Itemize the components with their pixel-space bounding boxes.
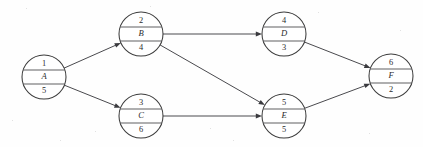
node-a[interactable]: 1A5 bbox=[22, 55, 66, 99]
node-layer: 1A52B43C64D35E56F2 bbox=[22, 12, 413, 138]
node-duration: 3 bbox=[282, 43, 286, 52]
edge-a-c bbox=[64, 85, 120, 108]
node-letter: B bbox=[138, 28, 144, 38]
edge-e-f bbox=[305, 84, 371, 109]
edge-b-d bbox=[163, 32, 262, 37]
node-letter: D bbox=[280, 28, 288, 38]
activity-network-diagram: 1A52B43C64D35E56F2 bbox=[0, 0, 423, 147]
arrow-head-icon bbox=[256, 114, 262, 119]
node-letter: C bbox=[138, 110, 144, 120]
edge-d-f bbox=[304, 42, 370, 68]
node-letter: E bbox=[280, 110, 287, 120]
node-duration: 5 bbox=[282, 125, 286, 134]
node-e[interactable]: 5E5 bbox=[262, 94, 306, 138]
node-number: 5 bbox=[282, 98, 286, 107]
node-number: 3 bbox=[139, 98, 143, 107]
node-d[interactable]: 4D3 bbox=[262, 12, 306, 56]
node-duration: 5 bbox=[42, 86, 46, 95]
diagram-canvas: 1A52B43C64D35E56F2 bbox=[0, 0, 423, 147]
edge-c-e bbox=[163, 114, 262, 119]
node-number: 6 bbox=[389, 58, 393, 67]
node-f[interactable]: 6F2 bbox=[369, 54, 413, 98]
node-letter: F bbox=[387, 70, 394, 80]
edge-a-b bbox=[64, 43, 121, 68]
node-c[interactable]: 3C6 bbox=[119, 94, 163, 138]
edge-b-e bbox=[160, 45, 265, 105]
node-number: 1 bbox=[42, 59, 46, 68]
node-duration: 6 bbox=[139, 125, 143, 134]
node-b[interactable]: 2B4 bbox=[119, 12, 163, 56]
arrow-head-icon bbox=[258, 100, 265, 105]
node-number: 2 bbox=[139, 16, 143, 25]
arrow-head-icon bbox=[364, 63, 371, 68]
arrow-head-icon bbox=[364, 84, 371, 88]
arrow-head-icon bbox=[114, 103, 121, 108]
arrow-head-icon bbox=[114, 43, 121, 48]
node-duration: 2 bbox=[389, 85, 393, 94]
node-letter: A bbox=[40, 71, 47, 81]
edge-layer bbox=[64, 32, 370, 119]
arrow-head-icon bbox=[256, 32, 262, 37]
